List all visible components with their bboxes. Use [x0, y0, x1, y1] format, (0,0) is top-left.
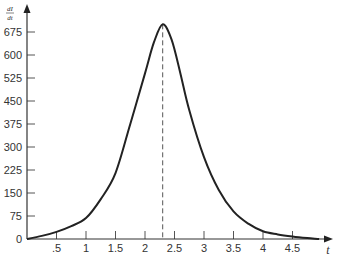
x-axis-arrow-icon — [324, 236, 333, 243]
y-axis-arrow-icon — [24, 4, 31, 13]
x-tick-label: 3.5 — [226, 242, 241, 254]
chart: 075150225300375450525600675 .511.522.533… — [0, 0, 337, 257]
y-tick-label: 0 — [16, 233, 22, 245]
y-tick-label: 600 — [4, 49, 22, 61]
y-tick-label: 150 — [4, 187, 22, 199]
y-tick-label: 525 — [4, 72, 22, 84]
x-tick-label: 2 — [142, 242, 148, 254]
x-tick-label: 4 — [260, 242, 266, 254]
x-tick-label: 4.5 — [285, 242, 300, 254]
y-tick-label: 675 — [4, 26, 22, 38]
y-tick-label: 300 — [4, 141, 22, 153]
y-tick-label: 75 — [10, 210, 22, 222]
y-axis-label-denominator: dt — [7, 14, 14, 22]
x-tick-label: 1.5 — [108, 242, 123, 254]
y-axis-ticks: 075150225300375450525600675 — [4, 26, 35, 245]
x-tick-label: 3 — [201, 242, 207, 254]
x-tick-label: .5 — [52, 242, 61, 254]
data-curve — [27, 24, 319, 239]
x-axis-label: t — [326, 243, 330, 257]
x-axis-ticks: .511.522.533.544.5 — [52, 231, 300, 254]
y-tick-label: 225 — [4, 164, 22, 176]
y-tick-label: 450 — [4, 95, 22, 107]
x-tick-label: 1 — [83, 242, 89, 254]
y-axis-label-numerator: dI — [7, 5, 14, 13]
y-tick-label: 375 — [4, 118, 22, 130]
x-tick-label: 2.5 — [167, 242, 182, 254]
